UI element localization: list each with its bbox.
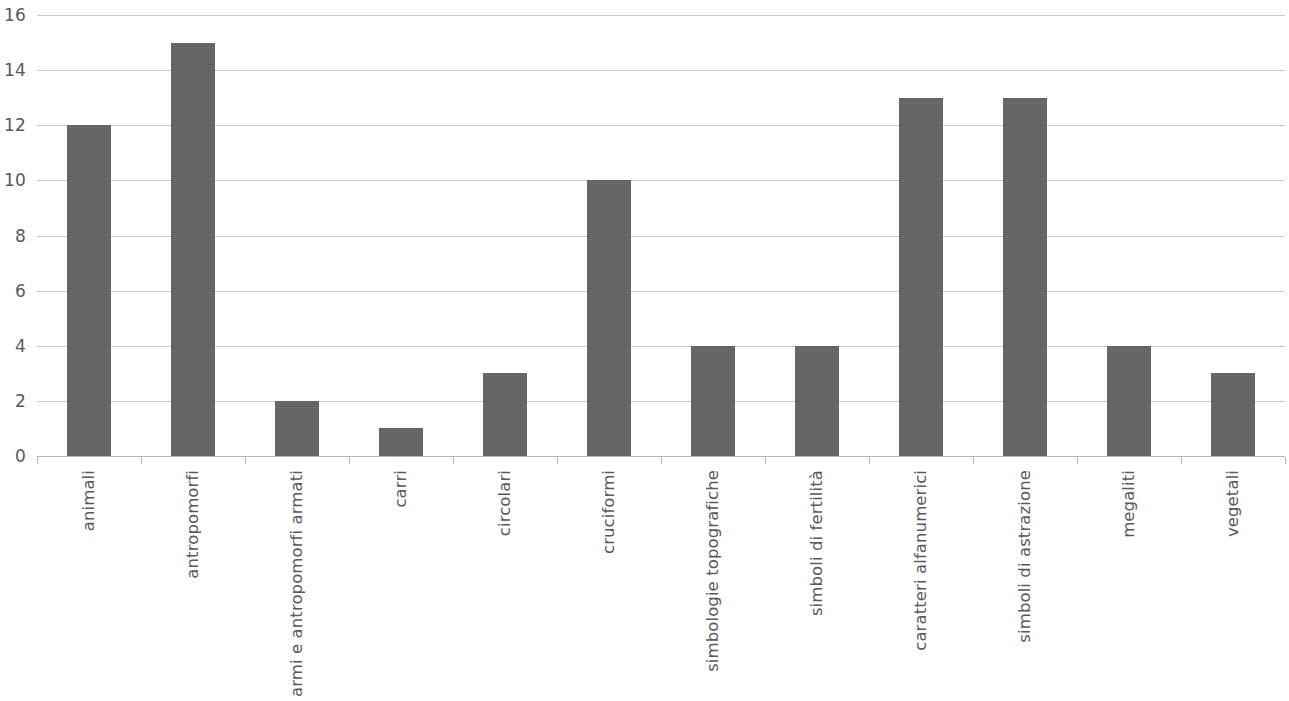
x-axis-tick-label: simboli di fertilità [809,470,826,616]
gridline [37,125,1285,126]
x-axis-label-slot: simboli di fertilità [765,466,869,701]
x-axis-label-slot: armi e antropomorfi armati [245,466,349,701]
y-tick-label: 10 [4,172,26,189]
x-axis-tick [765,457,766,464]
x-axis-label-slot: cruciformi [557,466,661,701]
x-axis-tick-label: simboli di astrazione [1017,470,1034,643]
y-tick-label: 2 [15,393,26,410]
x-axis-tick-label: caratteri alfanumerici [913,470,930,651]
x-axis-tick [1077,457,1078,464]
bar [1003,98,1047,456]
bar [691,346,735,456]
x-axis-tick-label: antropomorfi [185,470,202,579]
y-axis: 16 14 12 10 8 6 4 2 0 [0,0,37,471]
x-axis-label-slot: circolari [453,466,557,701]
bar [899,98,943,456]
gridline [37,15,1285,16]
x-axis-tick-label: simbologie topografiche [705,470,722,672]
bar [483,373,527,456]
x-axis-tick-label: animali [81,470,98,531]
gridline [37,291,1285,292]
x-axis-tick [1285,457,1286,464]
y-tick-label: 8 [15,228,26,245]
gridline [37,401,1285,402]
x-axis-label-slot: antropomorfi [141,466,245,701]
x-axis-tick [973,457,974,464]
y-tick-label: 6 [15,283,26,300]
x-axis-label-slot: megaliti [1077,466,1181,701]
bar [379,428,423,456]
bar [587,180,631,456]
x-axis-tick-label: carri [393,470,410,508]
x-axis-tick-label: vegetali [1225,470,1242,537]
bar [1107,346,1151,456]
plot-area [37,15,1285,456]
x-axis-tick [869,457,870,464]
x-axis-tick-label: megaliti [1121,470,1138,538]
x-axis-tick [141,457,142,464]
x-axis-tick-label: cruciformi [601,470,618,554]
gridline [37,180,1285,181]
x-axis-tick [349,457,350,464]
x-axis-tick-label: armi e antropomorfi armati [289,470,306,697]
x-axis: animaliantropomorfiarmi e antropomorfi a… [37,466,1285,701]
x-axis-label-slot: carri [349,466,453,701]
x-axis-tick-label: circolari [497,470,514,536]
bar [171,43,215,456]
y-tick-label: 0 [15,448,26,465]
x-axis-tick [37,457,38,464]
y-tick-label: 4 [15,338,26,355]
y-tick-label: 16 [4,7,26,24]
gridline [37,236,1285,237]
gridline [37,70,1285,71]
bar [275,401,319,456]
x-axis-label-slot: animali [37,466,141,701]
x-axis-tick [557,457,558,464]
x-axis-tick [661,457,662,464]
gridline [37,346,1285,347]
x-axis-label-slot: vegetali [1181,466,1285,701]
x-axis-tick [453,457,454,464]
x-axis-label-slot: simboli di astrazione [973,466,1077,701]
x-axis-tick [245,457,246,464]
bar-chart: 16 14 12 10 8 6 4 2 0 animaliantropomorf… [0,0,1289,701]
bar [795,346,839,456]
y-tick-label: 14 [4,62,26,79]
y-tick-label: 12 [4,117,26,134]
bar [67,125,111,456]
x-axis-label-slot: simbologie topografiche [661,466,765,701]
bar [1211,373,1255,456]
x-axis-tick [1181,457,1182,464]
x-axis-label-slot: caratteri alfanumerici [869,466,973,701]
